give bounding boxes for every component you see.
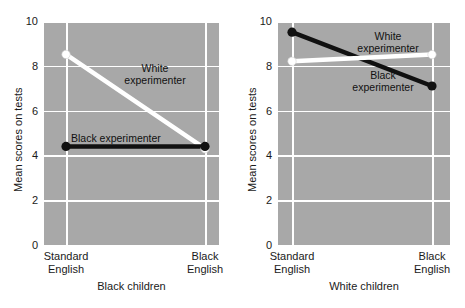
data-point-black-standard-english	[287, 28, 296, 37]
y-tick-label-8: 8	[246, 61, 272, 72]
data-point-white-standard-english	[62, 50, 70, 58]
series-annotation-white-experimenter-line1: White	[116, 62, 194, 75]
x-tick-label-standard-english-line2: English	[26, 263, 106, 277]
x-tick-label-black-english-line2: English	[397, 263, 465, 277]
two-panel-line-chart-figure: 10 8 6 4 2 0 Standard English Black Engl…	[0, 0, 465, 308]
data-point-white-standard-english	[288, 57, 296, 65]
data-point-black-standard-english	[61, 142, 70, 151]
x-tick-label-standard-english-line1: Standard	[252, 250, 332, 264]
series-annotation-black-experimenter-line1: Black	[340, 69, 426, 82]
y-tick-label-2: 2	[12, 195, 38, 206]
x-axis-title: White children	[278, 280, 450, 292]
data-point-black-black-english	[427, 81, 436, 90]
x-tick-label-standard-english-line2: English	[252, 263, 332, 277]
series-annotation-black-experimenter: Black experimenter	[71, 132, 201, 145]
y-axis-title: Mean scores on tests	[12, 87, 24, 192]
series-annotation-black-experimenter-line2: experimenter	[340, 81, 426, 94]
y-tick-label-8: 8	[12, 61, 38, 72]
series-annotation-white-experimenter-line2: experimenter	[116, 74, 194, 87]
y-axis-title: Mean scores on tests	[246, 87, 258, 192]
y-tick-label-10: 10	[12, 16, 38, 27]
series-annotation-white-experimenter-line2: experimenter	[345, 42, 431, 55]
series-annotation-white-experimenter-line1: White	[345, 30, 431, 43]
x-tick-label-black-english-line2: English	[170, 263, 240, 277]
x-tick-label-black-english-line1: Black	[397, 250, 465, 264]
x-tick-label-black-english-line1: Black	[170, 250, 240, 264]
x-axis-title: Black children	[44, 280, 219, 292]
x-tick-label-standard-english-line1: Standard	[26, 250, 106, 264]
chart-panel-white-children: 10 8 6 4 2 0 Standard English Black Engl…	[232, 0, 465, 308]
y-tick-label-2: 2	[246, 195, 272, 206]
chart-panel-black-children: 10 8 6 4 2 0 Standard English Black Engl…	[0, 0, 233, 308]
data-point-black-black-english	[200, 142, 209, 151]
y-tick-label-10: 10	[246, 16, 272, 27]
